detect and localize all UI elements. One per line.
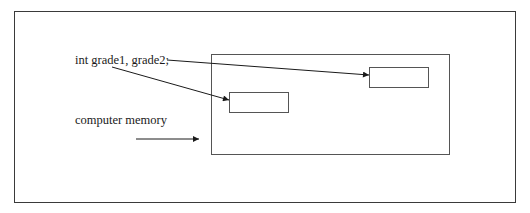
arrow-to-grade2 xyxy=(167,60,369,75)
arrow-to-grade1 xyxy=(112,67,229,100)
arrows-layer xyxy=(0,0,530,213)
diagram-canvas: int grade1, grade2; computer memory xyxy=(0,0,530,213)
